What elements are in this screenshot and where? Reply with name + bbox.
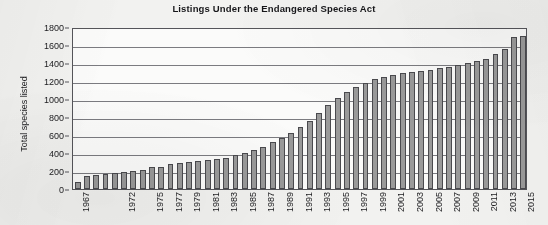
bar xyxy=(84,176,90,190)
x-tick-label: 2013 xyxy=(508,192,518,212)
y-tick-label: 0 xyxy=(59,185,64,195)
x-tick-label: 1975 xyxy=(155,192,165,212)
x-tick-label: 1995 xyxy=(341,192,351,212)
y-tick-mark xyxy=(65,100,69,101)
x-tick-label: 1991 xyxy=(304,192,314,212)
bar xyxy=(483,59,489,190)
x-tick-label: 1983 xyxy=(229,192,239,212)
bar xyxy=(233,155,239,189)
bar xyxy=(149,167,155,189)
bar xyxy=(214,159,220,189)
bar xyxy=(400,73,406,189)
x-tick-label: 1972 xyxy=(127,192,137,212)
gridline xyxy=(73,47,526,48)
plot-area xyxy=(72,28,527,190)
bar xyxy=(288,133,294,189)
bar xyxy=(372,79,378,189)
y-tick-mark xyxy=(65,136,69,137)
bar xyxy=(316,113,322,189)
bar xyxy=(75,182,81,189)
bar xyxy=(428,70,434,189)
bar xyxy=(279,138,285,189)
y-tick-mark xyxy=(65,118,69,119)
x-tick-label: 1989 xyxy=(285,192,295,212)
bar xyxy=(307,121,313,189)
y-tick-label: 1400 xyxy=(44,59,64,69)
y-tick-mark xyxy=(65,28,69,29)
x-tick-label: 1979 xyxy=(192,192,202,212)
bar xyxy=(409,72,415,189)
bar xyxy=(455,65,461,189)
y-tick-label: 1600 xyxy=(44,41,64,51)
bar xyxy=(502,49,508,189)
bar xyxy=(158,167,164,190)
y-tick-label: 600 xyxy=(49,131,64,141)
x-tick-label: 1967 xyxy=(81,192,91,212)
x-tick-label: 1987 xyxy=(266,192,276,212)
x-tick-label: 2009 xyxy=(471,192,481,212)
bar xyxy=(520,36,526,189)
bar xyxy=(121,172,127,189)
bar xyxy=(251,150,257,189)
y-tick-mark xyxy=(65,172,69,173)
bar xyxy=(93,175,99,189)
bar xyxy=(195,161,201,189)
x-tick-label: 2003 xyxy=(415,192,425,212)
bar xyxy=(270,142,276,189)
bar xyxy=(363,83,369,189)
bar xyxy=(103,174,109,189)
x-tick-label: 2007 xyxy=(452,192,462,212)
x-tick-label: 2001 xyxy=(396,192,406,212)
y-tick-label: 800 xyxy=(49,113,64,123)
x-tick-label: 1999 xyxy=(378,192,388,212)
y-tick-mark xyxy=(65,82,69,83)
x-tick-label: 2005 xyxy=(434,192,444,212)
y-tick-mark xyxy=(65,64,69,65)
y-axis-title: Total species listed xyxy=(19,54,29,174)
y-tick-mark xyxy=(65,46,69,47)
bar xyxy=(186,162,192,189)
x-axis-tick-labels: 1967197219751977197919811983198519871989… xyxy=(72,190,527,225)
x-tick-label: 1997 xyxy=(359,192,369,212)
y-tick-label: 1000 xyxy=(44,95,64,105)
y-tick-mark xyxy=(65,190,69,191)
y-tick-label: 1800 xyxy=(44,23,64,33)
y-tick-label: 400 xyxy=(49,149,64,159)
bar xyxy=(390,75,396,189)
x-tick-label: 1985 xyxy=(248,192,258,212)
y-tick-mark xyxy=(65,154,69,155)
bar xyxy=(493,54,499,189)
x-tick-label: 2011 xyxy=(489,192,499,211)
bar xyxy=(335,98,341,189)
bar xyxy=(112,173,118,189)
bar xyxy=(381,77,387,190)
bar xyxy=(325,105,331,189)
bar xyxy=(353,87,359,189)
x-tick-label: 2015 xyxy=(526,192,536,212)
chart-title: Listings Under the Endangered Species Ac… xyxy=(0,3,548,14)
bar xyxy=(242,153,248,189)
bar xyxy=(344,92,350,189)
bar xyxy=(298,127,304,189)
bar xyxy=(130,171,136,189)
bar xyxy=(205,160,211,189)
bar xyxy=(168,164,174,189)
bar xyxy=(177,163,183,189)
y-axis-tick-labels: 020040060080010001200140016001800 xyxy=(0,28,69,190)
x-tick-label: 1981 xyxy=(211,192,221,212)
bar xyxy=(223,158,229,190)
bar xyxy=(511,37,517,189)
bar xyxy=(474,61,480,189)
x-tick-label: 1993 xyxy=(322,192,332,212)
bar xyxy=(446,67,452,189)
bar xyxy=(260,147,266,189)
bar xyxy=(418,71,424,189)
y-tick-label: 200 xyxy=(49,167,64,177)
y-tick-label: 1200 xyxy=(44,77,64,87)
bar xyxy=(465,63,471,189)
bar xyxy=(140,170,146,189)
x-tick-label: 1977 xyxy=(174,192,184,212)
chart-screenshot: Listings Under the Endangered Species Ac… xyxy=(0,0,548,225)
bar xyxy=(437,68,443,189)
